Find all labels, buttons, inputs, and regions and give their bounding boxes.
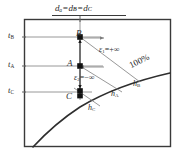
- point-label-A: A: [67, 59, 73, 68]
- point-label-C: C: [66, 92, 72, 101]
- state-point-marker-C: [77, 88, 83, 94]
- axis-label-tB: tB: [8, 31, 14, 41]
- axis-label-tA: tA: [8, 60, 14, 70]
- axis-label-tC: tC: [8, 86, 14, 96]
- state-point-marker-C2: [77, 94, 83, 98]
- d-a-symbol: dₐ=dʙ=dᴄ: [55, 3, 92, 13]
- state-point-marker-A: [77, 63, 83, 69]
- enthalpy-label-hB: hB: [133, 80, 140, 89]
- epsilon1-label: ε1=+∞: [99, 46, 119, 55]
- constant-humidity-label: dₐ=dʙ=dᴄ: [55, 4, 92, 13]
- chart-frame: [25, 20, 171, 147]
- enthalpy-label-hC: hC: [88, 104, 95, 113]
- epsilon1-arrowhead-icon: [100, 36, 104, 39]
- enthalpy-label-hA: hA: [111, 90, 119, 99]
- point-label-B: B: [76, 29, 82, 38]
- saturation-curve-100: [33, 73, 170, 147]
- epsilon2-label: ε2=−∞: [74, 74, 94, 83]
- figure-container: dₐ=dʙ=dᴄ tB tA tC B A C ε1=+∞ ε2=−∞ 100%…: [0, 0, 181, 157]
